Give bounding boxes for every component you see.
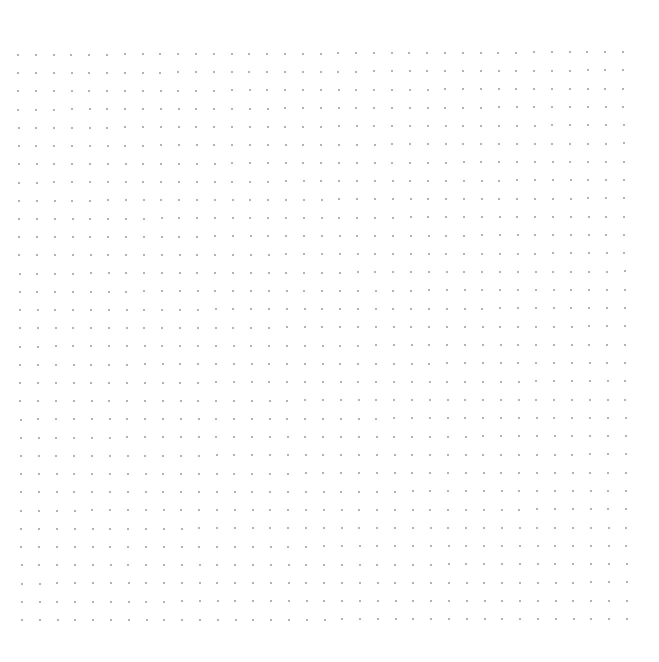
grid-dot	[323, 491, 325, 493]
grid-dot	[445, 143, 447, 145]
grid-dot	[377, 582, 379, 584]
grid-dot	[427, 180, 429, 182]
grid-dot	[268, 308, 270, 310]
grid-dot	[412, 527, 414, 529]
grid-dot	[74, 619, 76, 621]
grid-dot	[393, 363, 395, 365]
grid-dot	[71, 163, 73, 165]
grid-dot	[73, 437, 75, 439]
grid-dot	[445, 125, 447, 127]
grid-dot	[20, 473, 22, 475]
grid-dot	[465, 563, 467, 565]
grid-dot	[56, 510, 58, 512]
grid-dot	[535, 271, 537, 273]
grid-dot	[605, 179, 607, 181]
grid-dot	[128, 582, 130, 584]
grid-dot	[268, 381, 270, 383]
grid-dot	[551, 70, 553, 72]
grid-dot	[445, 198, 447, 200]
grid-dot	[161, 309, 163, 311]
grid-dot	[303, 290, 305, 292]
grid-dot	[71, 200, 73, 202]
grid-dot	[145, 546, 147, 548]
grid-dot	[216, 491, 218, 493]
grid-dot	[35, 90, 37, 92]
grid-dot	[357, 326, 359, 328]
grid-dot	[71, 108, 73, 110]
grid-dot	[536, 454, 538, 456]
grid-dot	[269, 509, 271, 511]
grid-dot	[125, 272, 127, 274]
grid-dot	[284, 53, 286, 55]
grid-dot	[38, 473, 40, 475]
grid-dot	[391, 107, 393, 109]
grid-dot	[20, 546, 22, 548]
grid-dot	[412, 582, 414, 584]
grid-dot	[537, 582, 539, 584]
grid-dot	[195, 126, 197, 128]
grid-dot	[36, 236, 38, 238]
grid-dot	[72, 345, 74, 347]
grid-dot	[268, 327, 270, 329]
grid-dot	[517, 344, 519, 346]
grid-dot	[142, 72, 144, 74]
grid-dot	[162, 436, 164, 438]
grid-dot	[552, 198, 554, 200]
grid-dot	[554, 545, 556, 547]
grid-dot	[303, 217, 305, 219]
grid-dot	[517, 326, 519, 328]
grid-dot	[90, 309, 92, 311]
grid-dot	[302, 162, 304, 164]
grid-dot	[163, 601, 165, 603]
grid-dot	[321, 290, 323, 292]
grid-dot	[357, 253, 359, 255]
grid-dot	[445, 162, 447, 164]
grid-dot	[266, 89, 268, 91]
grid-dot	[160, 126, 162, 128]
grid-dot	[285, 235, 287, 237]
grid-dot	[127, 564, 129, 566]
grid-dot	[572, 600, 574, 602]
grid-dot	[286, 363, 288, 365]
grid-dot	[285, 144, 287, 146]
grid-dot	[198, 473, 200, 475]
grid-dot	[337, 71, 339, 73]
grid-dot	[305, 527, 307, 529]
grid-dot	[270, 546, 272, 548]
grid-dot	[74, 564, 76, 566]
grid-dot	[162, 418, 164, 420]
grid-dot	[126, 345, 128, 347]
grid-dot	[109, 491, 111, 493]
grid-dot	[607, 399, 609, 401]
grid-dot	[214, 181, 216, 183]
grid-dot	[18, 127, 20, 129]
grid-dot	[285, 162, 287, 164]
grid-dot	[534, 125, 536, 127]
grid-dot	[38, 510, 40, 512]
grid-dot	[249, 144, 251, 146]
grid-dot	[359, 564, 361, 566]
grid-dot	[270, 582, 272, 584]
grid-dot	[551, 124, 553, 126]
grid-dot	[36, 182, 38, 184]
grid-dot	[303, 272, 305, 274]
grid-dot	[605, 106, 607, 108]
grid-dot	[267, 181, 269, 183]
grid-dot	[376, 472, 378, 474]
grid-dot	[427, 216, 429, 218]
grid-dot	[143, 218, 145, 220]
grid-dot	[53, 90, 55, 92]
grid-dot	[37, 327, 39, 329]
grid-dot	[464, 289, 466, 291]
grid-dot	[480, 107, 482, 109]
grid-dot	[199, 582, 201, 584]
grid-dot	[72, 291, 74, 293]
grid-dot	[144, 382, 146, 384]
grid-dot	[145, 582, 147, 584]
grid-dot	[536, 435, 538, 437]
grid-dot	[321, 217, 323, 219]
grid-dot	[73, 455, 75, 457]
grid-dot	[519, 618, 521, 620]
grid-dot	[462, 143, 464, 145]
grid-dot	[215, 418, 217, 420]
